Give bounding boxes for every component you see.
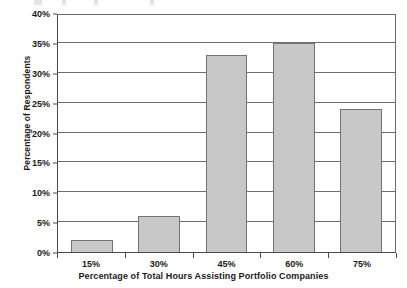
plot-area [57, 14, 396, 253]
x-axis-tick-mark [125, 253, 126, 258]
bar-slot [193, 15, 260, 252]
x-axis-tick-mark [193, 253, 194, 258]
x-axis-tick-mark [396, 253, 397, 258]
y-axis-tick-label: 15% [32, 158, 50, 168]
y-axis-tick-label: 5% [37, 218, 50, 228]
x-axis-tick-label: 75% [353, 259, 371, 269]
x-axis-tick-mark [260, 253, 261, 258]
x-axis-tick-label: 15% [82, 259, 100, 269]
bar-slot [328, 15, 395, 252]
bar[interactable] [71, 240, 113, 252]
x-axis-tick-mark [328, 253, 329, 258]
bar-chart-figure: Percentage of Respondents 0%5%10%15%20%2… [0, 0, 407, 288]
x-axis-title: Percentage of Total Hours Assisting Port… [0, 271, 407, 281]
bar-slot [58, 15, 125, 252]
bar[interactable] [273, 43, 315, 252]
bar-slot [260, 15, 327, 252]
y-axis-tick-label: 20% [32, 129, 50, 139]
y-axis-tick-label: 40% [32, 9, 50, 19]
bar[interactable] [138, 216, 180, 252]
x-axis-tick-mark [57, 253, 58, 258]
y-axis-ticks: 0%5%10%15%20%25%30%35%40% [0, 0, 57, 288]
y-axis-tick-label: 0% [37, 248, 50, 258]
y-axis-tick-label: 35% [32, 39, 50, 49]
bar-slot [125, 15, 192, 252]
y-axis-tick-label: 30% [32, 69, 50, 79]
y-axis-tick-label: 25% [32, 99, 50, 109]
x-axis-tick-label: 45% [217, 259, 235, 269]
bar-series [58, 15, 395, 252]
x-axis-tick-label: 30% [150, 259, 168, 269]
x-axis-tick-label: 60% [285, 259, 303, 269]
bar[interactable] [206, 55, 248, 252]
y-axis-tick-label: 10% [32, 188, 50, 198]
bar[interactable] [340, 109, 382, 252]
